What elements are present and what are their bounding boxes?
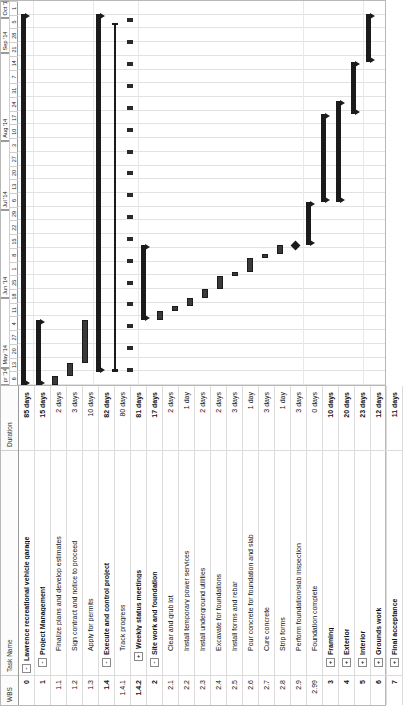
table-row[interactable]: 2.4Excavate for foundations2 days — [211, 386, 227, 705]
table-row[interactable]: 1.4.2+Weekly status meetings81 days — [131, 386, 147, 705]
collapse-toggle-icon[interactable]: - — [102, 658, 111, 667]
cell-task-name[interactable]: Clear and grub lot — [163, 450, 178, 675]
cell-duration: 80 days — [115, 387, 130, 450]
expand-toggle-icon[interactable]: + — [358, 658, 367, 667]
table-row[interactable]: 2.6Pour concrete for foundation and slab… — [243, 386, 259, 705]
cell-duration: 1 day — [243, 387, 258, 450]
table-row[interactable]: 5+Interior23 days — [355, 386, 371, 705]
gantt-recurring-bar[interactable] — [127, 18, 133, 371]
cell-task-name[interactable]: -Lawrence recreational vehicle garage — [19, 450, 34, 675]
cell-task-name[interactable]: Foundation complete — [307, 450, 322, 675]
column-header-wbs[interactable]: WBS — [1, 675, 18, 705]
cell-task-name[interactable]: Install forms and rebar — [227, 450, 242, 675]
gantt-task-bar[interactable] — [187, 298, 193, 307]
gantt-occurrence-tick — [127, 237, 133, 241]
table-row[interactable]: 2-Site work and foundation17 days — [147, 386, 163, 705]
cell-task-name[interactable]: +Weekly status meetings — [131, 450, 146, 675]
gantt-summary-bar[interactable] — [351, 62, 356, 114]
gantt-task-bar[interactable] — [232, 272, 238, 276]
cell-task-name[interactable]: Perform foundation/slab inspection — [291, 450, 306, 675]
gantt-summary-bar[interactable] — [21, 14, 26, 385]
table-row[interactable]: 2.5Install forms and rebar3 days — [227, 386, 243, 705]
table-row[interactable]: 1.3Apply for permits10 days — [83, 386, 99, 705]
gantt-summary-bar[interactable] — [321, 114, 326, 201]
cell-task-name[interactable]: Pour concrete for foundation and slab — [243, 450, 258, 675]
gantt-rolled-up-bar[interactable] — [114, 23, 116, 372]
gantt-occurrence-tick — [127, 150, 133, 154]
gantt-task-bar[interactable] — [82, 320, 88, 364]
gantt-task-bar[interactable] — [247, 258, 253, 271]
gantt-task-bar[interactable] — [157, 311, 163, 320]
expand-toggle-icon[interactable]: + — [326, 658, 335, 667]
table-row[interactable]: 4+Exterior20 days — [339, 386, 355, 705]
column-header-duration[interactable]: Duration — [1, 387, 18, 450]
cell-task-name[interactable]: Sign contract and notice to proceed — [67, 450, 82, 675]
table-row[interactable]: 3+Framing10 days — [323, 386, 339, 705]
expand-toggle-icon[interactable]: + — [134, 652, 143, 661]
gantt-summary-bar[interactable] — [141, 245, 146, 319]
gantt-summary-bar[interactable] — [366, 14, 371, 62]
gantt-task-bar[interactable] — [67, 363, 73, 376]
table-row[interactable]: 2.2Install temporary power services1 day — [179, 386, 195, 705]
cell-task-name[interactable]: Install underground utilities — [195, 450, 210, 675]
table-row[interactable]: 2.3Install underground utilities2 days — [195, 386, 211, 705]
cell-task-name[interactable]: Apply for permits — [83, 450, 98, 675]
table-row[interactable]: 2.99Foundation complete0 days — [307, 386, 323, 705]
timescale-week-label: 27 — [10, 152, 18, 166]
cell-task-name[interactable]: Strip forms — [275, 450, 290, 675]
cell-task-name[interactable]: Track progress — [115, 450, 130, 675]
table-row[interactable]: 1.4.1Track progress80 days — [115, 386, 131, 705]
gantt-summary-bar[interactable] — [36, 320, 41, 385]
cell-task-name[interactable]: +Grounds work — [371, 450, 386, 675]
gantt-task-bar[interactable] — [277, 245, 283, 254]
gantt-occurrence-tick — [127, 259, 133, 263]
table-row[interactable]: 1.2Sign contract and notice to proceed3 … — [67, 386, 83, 705]
timescale-month-label: May '14 — [1, 298, 9, 368]
cell-wbs: 2.9 — [291, 675, 306, 705]
cell-task-name[interactable]: -Execute and control project — [99, 450, 114, 675]
cell-task-name[interactable]: -Site work and foundation — [147, 450, 162, 675]
table-row[interactable]: 0-Lawrence recreational vehicle garage85… — [19, 386, 35, 705]
gantt-summary-bar[interactable] — [96, 14, 101, 372]
gantt-task-bar[interactable] — [217, 276, 223, 289]
table-row[interactable]: 2.8Strip forms1 day — [275, 386, 291, 705]
cell-task-name[interactable]: +Framing — [323, 450, 338, 675]
cell-task-name[interactable]: Cure concrete — [259, 450, 274, 675]
task-table[interactable]: WBS Task Name Duration 0-Lawrence recrea… — [0, 386, 386, 706]
timescale-week-label: 1 — [10, 262, 18, 276]
table-row[interactable]: 2.7Cure concrete3 days — [259, 386, 275, 705]
cell-task-name[interactable]: Finalize plans and develop estimates — [51, 450, 66, 675]
cell-task-name[interactable]: Install temporary power services — [179, 450, 194, 675]
gantt-milestone-marker[interactable] — [290, 240, 300, 250]
expand-toggle-icon[interactable]: + — [374, 658, 383, 667]
table-row[interactable]: 2.1Clear and grub lot2 days — [163, 386, 179, 705]
gantt-summary-bar[interactable] — [306, 202, 311, 246]
table-row[interactable]: 1.1Finalize plans and develop estimates2… — [51, 386, 67, 705]
collapse-toggle-icon[interactable]: - — [150, 658, 159, 667]
cell-duration: 15 days — [35, 387, 50, 450]
gantt-task-bar[interactable] — [202, 289, 208, 298]
cell-task-name[interactable]: Excavate for foundations — [211, 450, 226, 675]
expand-toggle-icon[interactable]: + — [390, 658, 399, 667]
task-name-label: Execute and control project — [103, 563, 110, 655]
expand-toggle-icon[interactable]: + — [342, 658, 351, 667]
gantt-bars-area[interactable] — [18, 1, 385, 385]
collapse-toggle-icon[interactable]: - — [22, 664, 31, 673]
cell-task-name[interactable]: +Final acceptance — [387, 450, 402, 675]
cell-task-name[interactable]: -Project Management — [35, 450, 50, 675]
table-row[interactable]: 7+Final acceptance11 days — [387, 386, 403, 705]
table-row[interactable]: 2.9Perform foundation/slab inspection3 d… — [291, 386, 307, 705]
cell-task-name[interactable]: +Interior — [355, 450, 370, 675]
table-row[interactable]: 6+Grounds work12 days — [371, 386, 387, 705]
collapse-toggle-icon[interactable]: - — [38, 658, 47, 667]
gantt-task-bar[interactable] — [52, 376, 58, 385]
table-row[interactable]: 1.4-Execute and control project82 days — [99, 386, 115, 705]
gantt-task-bar[interactable] — [172, 306, 178, 310]
gantt-row — [348, 1, 363, 385]
table-row[interactable]: 1-Project Management15 days — [35, 386, 51, 705]
gantt-task-bar[interactable] — [262, 254, 268, 258]
cell-task-name[interactable]: +Exterior — [339, 450, 354, 675]
gantt-summary-bar[interactable] — [336, 101, 341, 201]
gantt-timeline-pane[interactable]: pr '14May '14Jun '14Jul '14Aug '14Sep '1… — [0, 0, 386, 386]
column-header-task-name[interactable]: Task Name — [1, 450, 18, 675]
